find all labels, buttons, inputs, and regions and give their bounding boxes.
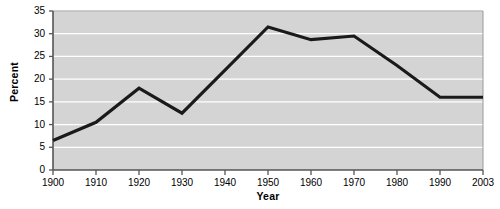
line-chart-figure: Percent Year 05101520253035 190019101920…	[0, 0, 500, 209]
plot-background	[53, 11, 483, 170]
plot-area	[0, 0, 500, 209]
